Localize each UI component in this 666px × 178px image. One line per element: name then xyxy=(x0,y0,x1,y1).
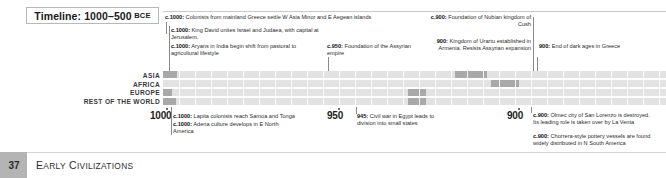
event-king-david-israel-judaea: c.1000: King David unites Israel and Jud… xyxy=(171,27,321,41)
grid-tick xyxy=(627,71,628,107)
event-year: 900: xyxy=(539,43,550,49)
timeline-title-label: Timeline: 1000–500 xyxy=(34,10,131,22)
band-segment xyxy=(163,89,172,96)
event-kingdom-of-urartu: 900: Kingdom of Urartu established in Ar… xyxy=(424,38,531,52)
grid-tick xyxy=(275,71,276,107)
event-year: 900: xyxy=(437,38,448,44)
grid-tick xyxy=(355,71,356,107)
page-footer: 37 EARLY CIVILIZATIONS xyxy=(0,152,666,178)
grid-tick xyxy=(483,71,484,107)
grid-tick xyxy=(195,71,196,107)
leader-line-assyrian-empire xyxy=(328,57,329,71)
event-end-of-dark-ages-greece: 900: End of dark ages in Greece xyxy=(539,43,629,50)
grid-tick xyxy=(611,71,612,107)
band-segment xyxy=(163,71,177,78)
band-row-europe xyxy=(163,89,666,96)
grid-tick xyxy=(403,71,404,107)
leader-line-nubian-cush xyxy=(533,17,534,71)
timeline-page: Timeline: 1000–500 BCE c.1000: Colonists… xyxy=(0,0,666,178)
region-label-column: ASIA AFRICA EUROPE REST OF THE WORLD xyxy=(0,72,160,106)
event-text: Aryans in India begin shift from pastora… xyxy=(171,43,296,56)
event-year: c.1000: xyxy=(171,27,190,33)
band-row-rest-of-world xyxy=(163,98,666,105)
grid-tick xyxy=(531,71,532,107)
leader-line-greek-colonists xyxy=(166,22,167,34)
event-text: Lapita colonists reach Samoa and Tonga xyxy=(192,113,295,119)
grid-tick xyxy=(259,71,260,107)
event-year: 945: xyxy=(357,113,368,119)
band-segment xyxy=(163,98,176,105)
header-divider xyxy=(163,11,666,12)
event-year: c.900: xyxy=(533,133,549,139)
leader-line-adena-culture xyxy=(171,107,172,135)
event-lapita-colonists-samoa-tonga: c.1000: Lapita colonists reach Samoa and… xyxy=(173,113,353,120)
axis-year-900: 900 xyxy=(507,110,523,121)
grid-tick xyxy=(179,71,180,107)
grid-tick xyxy=(595,71,596,107)
footer-divider xyxy=(27,152,666,153)
event-text: Foundation of Nubian kingdom of Cush xyxy=(447,14,531,27)
leader-line-dark-ages-greece xyxy=(537,57,538,71)
grid-tick xyxy=(387,71,388,107)
event-text: King David unites Israel and Judaea, wit… xyxy=(171,27,319,40)
grid-tick xyxy=(211,71,212,107)
event-aryans-india-agriculture: c.1000: Aryans in India begin shift from… xyxy=(171,43,323,57)
event-foundation-assyrian-empire: c.950: Foundation of the Assyrian empire xyxy=(327,43,411,57)
event-text: End of dark ages in Greece xyxy=(550,43,620,49)
event-year: c.900: xyxy=(533,112,549,118)
grid-tick xyxy=(515,71,516,107)
event-text: Civil war in Egypt leads to division int… xyxy=(357,113,434,126)
grid-tick xyxy=(371,71,372,107)
section-title-part-2-small: IVILIZATIONS xyxy=(77,161,134,171)
event-chorrera-pottery-south-america: c.900: Chorrera-style pottery vessels ar… xyxy=(533,133,655,147)
event-year: c.1000: xyxy=(165,14,184,20)
event-adena-culture-north-america: c.1000: Adena culture develops in E Nort… xyxy=(173,121,293,135)
event-text: Colonists from mainland Greece settle W … xyxy=(184,14,371,20)
event-text: Chorrera-style pottery vessels are found… xyxy=(533,133,650,146)
grid-tick xyxy=(467,71,468,107)
event-civil-war-egypt: 945: Civil war in Egypt leads to divisio… xyxy=(357,113,452,127)
event-year: c.1000: xyxy=(171,43,190,49)
leader-line-civil-war-egypt xyxy=(356,107,357,114)
axis-year-1000: 1000 xyxy=(150,110,171,121)
leader-line-aryans-india xyxy=(169,26,170,71)
grid-tick xyxy=(419,71,420,107)
timeline-era-label: BCE xyxy=(134,11,150,20)
grid-tick xyxy=(451,71,452,107)
grid-tick xyxy=(291,71,292,107)
band-segment xyxy=(408,89,426,96)
band-row-asia xyxy=(163,71,666,78)
leader-line-olmec-san-lorenzo xyxy=(531,107,532,113)
region-label-asia: ASIA xyxy=(143,72,160,79)
grid-tick xyxy=(643,71,644,107)
section-title: EARLY CIVILIZATIONS xyxy=(36,159,133,171)
grid-tick xyxy=(579,71,580,107)
region-label-rest-of-world: REST OF THE WORLD xyxy=(84,98,160,105)
region-label-africa: AFRICA xyxy=(133,81,160,88)
region-label-europe: EUROPE xyxy=(130,89,160,96)
grid-tick xyxy=(307,71,308,107)
grid-tick xyxy=(659,71,660,107)
grid-tick xyxy=(547,71,548,107)
band-segment xyxy=(408,98,426,105)
event-year: c.900: xyxy=(431,14,447,20)
grid-tick xyxy=(243,71,244,107)
event-year: c.1000: xyxy=(173,121,192,127)
grid-tick xyxy=(499,71,500,107)
page-number: 37 xyxy=(4,160,24,171)
grid-tick xyxy=(227,71,228,107)
timeline-bands xyxy=(163,71,666,107)
timeline-title-box: Timeline: 1000–500 BCE xyxy=(26,7,159,24)
grid-tick xyxy=(563,71,564,107)
grid-tick xyxy=(339,71,340,107)
event-olmec-san-lorenzo-destroyed: c.900: Olmec city of San Lorenzo is dest… xyxy=(533,112,655,126)
grid-tick xyxy=(323,71,324,107)
grid-tick xyxy=(435,71,436,107)
event-year: c.950: xyxy=(327,43,343,49)
event-nubian-kingdom-of-cush: c.900: Foundation of Nubian kingdom of C… xyxy=(424,14,531,28)
section-title-part-2-big: C xyxy=(69,159,77,171)
band-row-africa xyxy=(163,80,666,87)
event-text: Olmec city of San Lorenzo is destroyed. … xyxy=(533,112,650,125)
section-title-part-1-small: ARLY xyxy=(43,161,65,171)
event-year: c.1000: xyxy=(173,113,192,119)
